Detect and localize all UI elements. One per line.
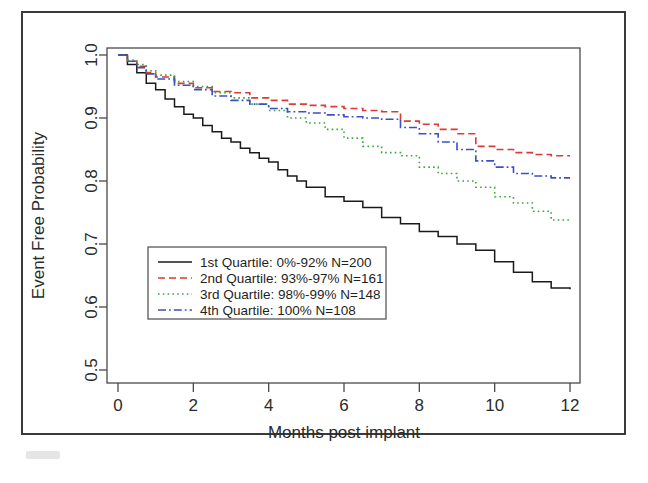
km-survival-chart: 0.50.60.70.80.91.0024681012Months post i… — [0, 0, 648, 483]
x-axis-tick-label: 4 — [264, 396, 273, 415]
y-axis-tick-label: 0.7 — [82, 232, 101, 256]
legend-label-1: 1st Quartile: 0%-92% N=200 — [200, 255, 371, 270]
y-axis-tick-label: 0.9 — [82, 106, 101, 130]
figure-container: 0.50.60.70.80.91.0024681012Months post i… — [0, 0, 648, 483]
legend-label-2: 2nd Quartile: 93%-97% N=161 — [200, 271, 384, 286]
x-axis-tick-label: 8 — [415, 396, 424, 415]
x-axis-tick-label: 0 — [113, 396, 122, 415]
x-axis-tick-label: 12 — [561, 396, 580, 415]
km-curve-2 — [118, 55, 570, 156]
x-axis-tick-label: 6 — [339, 396, 348, 415]
y-axis-tick-label: 0.5 — [82, 358, 101, 382]
y-axis-title: Event Free Probability — [29, 131, 48, 299]
plot-area-border — [107, 48, 580, 383]
x-axis-tick-label: 10 — [485, 396, 504, 415]
legend-label-3: 3rd Quartile: 98%-99% N=148 — [200, 287, 380, 302]
x-axis-tick-label: 2 — [189, 396, 198, 415]
x-axis-title: Months post implant — [268, 423, 420, 442]
y-axis-tick-label: 0.6 — [82, 295, 101, 319]
km-curve-4 — [118, 55, 570, 178]
legend-label-4: 4th Quartile: 100% N=108 — [200, 303, 356, 318]
y-axis-tick-label: 1.0 — [82, 43, 101, 67]
y-axis-tick-label: 0.8 — [82, 169, 101, 193]
